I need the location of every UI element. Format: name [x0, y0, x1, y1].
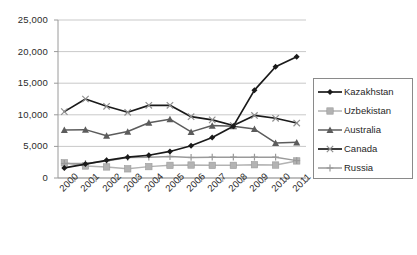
data-point-square [103, 164, 109, 170]
series-line [64, 57, 296, 168]
data-point-plus [327, 164, 334, 171]
y-tick-label: 10,000 [2, 109, 48, 120]
legend-label: Canada [343, 143, 377, 154]
series-kazakhstan [61, 54, 299, 171]
data-point-square [327, 107, 333, 113]
legend-marker-triangle-icon [317, 123, 343, 137]
data-point-plus [251, 154, 258, 161]
data-point-diamond [125, 154, 131, 160]
legend-item-uzbekistan[interactable]: Uzbekistan [314, 101, 412, 120]
y-tick-label: 15,000 [2, 77, 48, 88]
data-point-square [167, 162, 173, 168]
legend-label: Kazakhstan [343, 86, 394, 97]
legend-marker-square-icon [317, 104, 343, 118]
data-point-square [125, 166, 131, 172]
y-tick-label: 20,000 [2, 46, 48, 57]
data-point-diamond [167, 148, 173, 154]
legend-item-australia[interactable]: Australia [314, 120, 412, 139]
legend-item-russia[interactable]: Russia [314, 158, 412, 177]
data-series-group [61, 54, 300, 172]
series-canada [61, 96, 300, 129]
data-point-square [272, 162, 278, 168]
legend-item-canada[interactable]: Canada [314, 139, 412, 158]
y-tick-label: 5,000 [2, 140, 48, 151]
data-point-plus [230, 154, 237, 161]
series-australia [61, 116, 300, 146]
series-uzbekistan [61, 158, 300, 172]
data-point-square [230, 162, 236, 168]
data-point-square [209, 162, 215, 168]
y-tick-label: 25,000 [2, 14, 48, 25]
data-point-diamond [188, 143, 194, 149]
legend-marker-plus-icon [317, 161, 343, 175]
chart-legend: KazakhstanUzbekistanAustraliaCanadaRussi… [313, 78, 413, 179]
legend-marker-cross-icon [317, 142, 343, 156]
data-point-plus [188, 154, 195, 161]
legend-label: Australia [343, 124, 381, 135]
legend-item-kazakhstan[interactable]: Kazakhstan [314, 82, 412, 101]
series-line [64, 119, 296, 143]
data-point-square [251, 162, 257, 168]
series-line [64, 99, 296, 126]
data-point-cross [61, 108, 67, 114]
data-point-square [146, 163, 152, 169]
legend-label: Russia [343, 162, 373, 173]
gridlines [58, 20, 306, 178]
data-point-diamond [294, 54, 300, 60]
line-chart: 05,00010,00015,00020,00025,000 200020012… [0, 0, 417, 255]
legend-label: Uzbekistan [343, 105, 391, 116]
legend-marker-diamond-icon [317, 85, 343, 99]
y-tick-label: 0 [2, 172, 48, 183]
data-point-plus [209, 154, 216, 161]
data-point-plus [272, 154, 279, 161]
data-point-diamond [104, 157, 110, 163]
data-point-square [188, 162, 194, 168]
data-point-diamond [209, 135, 215, 141]
data-point-diamond [327, 89, 333, 95]
